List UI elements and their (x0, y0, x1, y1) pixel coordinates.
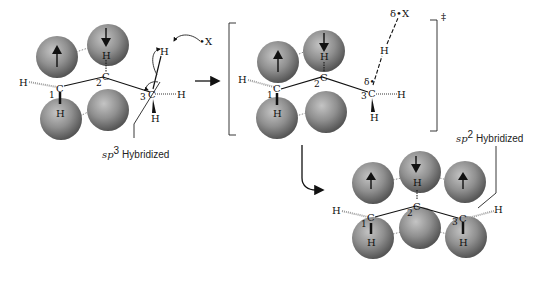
sp3-hybridized-label: sp3Hybridized (102, 145, 169, 160)
p-orbital-lobe (352, 162, 394, 204)
electron-pushing-arrow (153, 49, 160, 75)
hydrogen: H (332, 205, 341, 216)
p-orbital-lobe (87, 89, 129, 131)
carbon-1: C (367, 212, 375, 223)
carbon-1: C (56, 83, 64, 94)
carbon-3-number: 3 (140, 92, 146, 102)
p-orbital-lobe (40, 98, 82, 140)
hashed-bond (29, 82, 57, 87)
p-orbital-lobe (305, 91, 347, 133)
reaction-arrow-icon (302, 145, 322, 190)
carbon-3: C (368, 88, 376, 99)
carbon-1: C (273, 83, 281, 94)
hydrogen: H (413, 177, 422, 188)
partial-radical-c3: δ• (364, 77, 375, 87)
hydrogen: H (320, 51, 329, 62)
hydrogen: H (397, 89, 406, 100)
carbon-1-number: 1 (267, 90, 273, 100)
hydrogen: H (56, 108, 65, 119)
hydrogen: H (238, 74, 247, 85)
hydrogen: H (459, 237, 468, 248)
diagram-canvas: C 1 C 2 C 3 H H H H H H •X sp3Hybridized… (0, 0, 533, 286)
wedge-bond (152, 99, 156, 113)
reactant-panel: C 1 C 2 C 3 H H H H H H •X sp3Hybridized (19, 24, 213, 160)
right-bracket (430, 20, 437, 131)
carbon-3-number: 3 (361, 91, 367, 101)
carbon-1-number: 1 (49, 90, 55, 100)
carbon-2-number: 2 (407, 208, 413, 218)
orbital-overlap (76, 48, 88, 52)
hydrogen: H (151, 113, 160, 124)
partial-radical-x: δ•X (390, 8, 410, 19)
double-dagger-symbol: ‡ (441, 11, 446, 22)
carbon-3: C (459, 213, 467, 224)
hashed-bond (342, 211, 368, 217)
hydrogen: H (494, 204, 503, 215)
product-panel: C 1 C 2 C 3 H H H H H sp2Hybridized (332, 129, 523, 259)
hashed-bond (468, 211, 494, 218)
left-bracket (229, 23, 236, 135)
sp3-leader-line (134, 82, 160, 138)
c3-h-bond (153, 56, 161, 89)
carbon-2: C (320, 72, 328, 83)
p-orbital-lobe (444, 161, 486, 203)
wedge-bond (371, 98, 375, 112)
p-orbital-lobe (399, 207, 441, 249)
hydrogen: H (177, 89, 186, 100)
hydrogen-abstracted: H (160, 46, 169, 57)
carbon-2: C (413, 201, 421, 212)
hydrogen-in-transfer: H (380, 45, 389, 56)
reaction-diagram: C 1 C 2 C 3 H H H H H H •X sp3Hybridized… (0, 0, 533, 286)
carbon-3-number: 3 (452, 217, 458, 227)
hydrogen: H (19, 77, 28, 88)
carbon-2-number: 2 (96, 78, 102, 88)
hydrogen: H (273, 108, 282, 119)
hydrogen: H (102, 50, 111, 61)
electron-pushing-arrow (174, 35, 200, 41)
x-radical: •X (199, 36, 213, 47)
hydrogen: H (370, 112, 379, 123)
carbon-1-number: 1 (361, 219, 367, 229)
partial-bond (387, 18, 398, 44)
carbon-2: C (102, 71, 110, 82)
orbital-overlap (393, 178, 401, 180)
carbon-3: C (148, 89, 156, 100)
carbon-2-number: 2 (314, 79, 320, 89)
sp2-hybridized-label: sp2Hybridized (456, 129, 523, 144)
transition-state-panel: ‡ C 1 C 2 C 3 δ• H H H H H H (229, 8, 446, 139)
hydrogen: H (367, 237, 376, 248)
